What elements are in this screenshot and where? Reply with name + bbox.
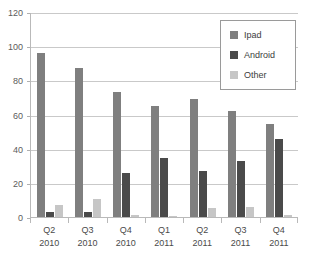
bar: [190, 99, 198, 217]
x-tick-mark: [221, 218, 222, 223]
y-tick-label: 120: [8, 9, 23, 18]
y-tick-label: 40: [13, 145, 23, 154]
x-axis-label-year: 2010: [30, 237, 68, 250]
x-axis-label: Q42011: [260, 224, 298, 250]
bar: [199, 171, 207, 217]
legend-label: Android: [244, 50, 275, 60]
bar: [237, 161, 245, 217]
x-axis-label: Q22010: [30, 224, 68, 250]
legend-swatch-icon: [230, 31, 238, 39]
legend-item[interactable]: Other: [230, 65, 295, 85]
y-axis: 020406080100120: [0, 13, 27, 218]
x-axis-ticks: [30, 218, 298, 223]
x-tick-mark: [30, 218, 31, 223]
x-axis-label-year: 2011: [183, 237, 221, 250]
bar: [284, 215, 292, 217]
x-axis-label-quarter: Q3: [221, 224, 259, 237]
legend-label: Ipad: [244, 30, 262, 40]
bar-group: [107, 13, 145, 217]
bar-chart: 020406080100120 Q22010Q32010Q42010Q12011…: [0, 0, 310, 268]
bar: [37, 53, 45, 217]
bar-group: [145, 13, 183, 217]
bar: [131, 215, 139, 217]
x-tick-mark: [68, 218, 69, 223]
x-axis-label-year: 2011: [221, 237, 259, 250]
chart-legend: IpadAndroidOther: [220, 20, 296, 90]
bar: [169, 216, 177, 217]
x-axis-label-quarter: Q1: [145, 224, 183, 237]
bar: [113, 92, 121, 217]
legend-item[interactable]: Android: [230, 45, 295, 65]
x-axis-label: Q32010: [68, 224, 106, 250]
legend-label: Other: [244, 70, 267, 80]
bar: [246, 207, 254, 217]
bar: [151, 106, 159, 217]
legend-item[interactable]: Ipad: [230, 25, 295, 45]
x-axis-label: Q32011: [221, 224, 259, 250]
bar: [228, 111, 236, 217]
bar: [208, 208, 216, 217]
bar: [122, 173, 130, 217]
legend-swatch-icon: [230, 71, 238, 79]
x-axis-label: Q12011: [145, 224, 183, 250]
legend-swatch-icon: [230, 51, 238, 59]
y-tick-label: 80: [13, 77, 23, 86]
x-axis-labels: Q22010Q32010Q42010Q12011Q22011Q32011Q420…: [30, 224, 298, 250]
bar: [84, 212, 92, 217]
bar: [266, 124, 274, 217]
x-axis-label-year: 2011: [145, 237, 183, 250]
x-axis-label-quarter: Q2: [183, 224, 221, 237]
x-tick-mark: [183, 218, 184, 223]
x-axis-label-quarter: Q3: [68, 224, 106, 237]
bar-group: [31, 13, 69, 217]
y-tick-label: 0: [18, 214, 23, 223]
x-axis-label-quarter: Q4: [260, 224, 298, 237]
bar: [46, 212, 54, 217]
x-tick-mark: [260, 218, 261, 223]
bar: [275, 139, 283, 217]
bar: [55, 205, 63, 217]
bar: [93, 199, 101, 217]
x-axis-label-year: 2010: [68, 237, 106, 250]
bar: [160, 158, 168, 217]
x-axis-label-year: 2010: [107, 237, 145, 250]
x-axis-label: Q42010: [107, 224, 145, 250]
bar: [75, 68, 83, 217]
x-axis-label-quarter: Q2: [30, 224, 68, 237]
bar-group: [184, 13, 222, 217]
x-tick-mark: [297, 218, 298, 223]
y-tick-label: 100: [8, 43, 23, 52]
bar-group: [69, 13, 107, 217]
y-tick-label: 20: [13, 179, 23, 188]
x-axis-label-year: 2011: [260, 237, 298, 250]
x-tick-mark: [107, 218, 108, 223]
x-tick-mark: [145, 218, 146, 223]
x-axis-label-quarter: Q4: [107, 224, 145, 237]
y-tick-label: 60: [13, 111, 23, 120]
x-axis-label: Q22011: [183, 224, 221, 250]
